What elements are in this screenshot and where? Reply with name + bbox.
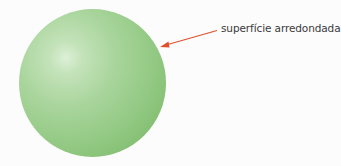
green-sphere (19, 9, 166, 157)
diagram-canvas: superfície arredondada (0, 0, 341, 166)
annotation-label: superfície arredondada (221, 22, 341, 34)
